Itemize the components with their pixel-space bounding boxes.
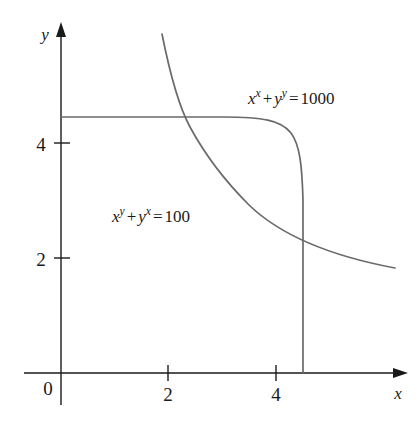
annotation-curve-1000: xx+yy=1000 bbox=[248, 90, 335, 107]
annotation-1000-exp1: x bbox=[256, 87, 261, 100]
annotation-curve-100: xy+yx=100 bbox=[112, 208, 190, 225]
annotation-100-base2: y bbox=[138, 207, 146, 226]
annotation-1000-base1: x bbox=[248, 89, 256, 108]
annotation-1000-equals: = bbox=[287, 89, 301, 108]
annotation-100-equals: = bbox=[151, 207, 165, 226]
y-tick-label-2: 2 bbox=[36, 249, 46, 270]
x-axis-label: x bbox=[393, 384, 402, 403]
curve-xx-yy-1000 bbox=[61, 117, 303, 373]
annotation-100-exp1: y bbox=[120, 205, 125, 218]
annotation-100-value: 100 bbox=[165, 207, 191, 226]
x-tick-label-4: 4 bbox=[271, 384, 281, 405]
y-axis-arrow-icon bbox=[56, 22, 66, 37]
origin-label: 0 bbox=[43, 378, 53, 399]
math-plot: 4 2 2 4 0 y x bbox=[0, 0, 417, 432]
figure-container: 4 2 2 4 0 y x xx+yy=1000 xy+yx=100 bbox=[0, 0, 417, 432]
curve-xy-yx-100 bbox=[162, 34, 395, 268]
x-axis-arrow-icon bbox=[393, 368, 408, 378]
y-axis-label: y bbox=[39, 25, 49, 44]
annotation-1000-value: 1000 bbox=[301, 89, 335, 108]
annotation-100-base1: x bbox=[112, 207, 120, 226]
annotation-100-plus: + bbox=[125, 207, 139, 226]
y-tick-label-4: 4 bbox=[36, 134, 46, 155]
x-tick-label-2: 2 bbox=[163, 384, 173, 405]
annotation-1000-plus: + bbox=[261, 89, 275, 108]
annotation-1000-base2: y bbox=[274, 89, 282, 108]
